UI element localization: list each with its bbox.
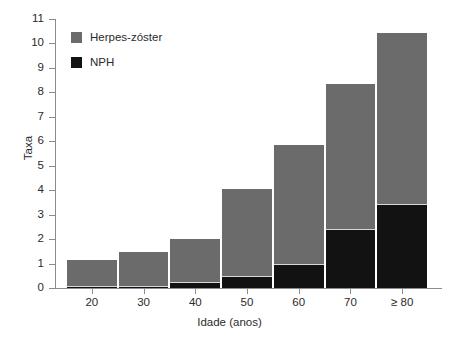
y-tick-mark — [49, 43, 56, 44]
y-tick-label: 8 — [0, 86, 44, 98]
bar-20 — [66, 259, 118, 288]
y-tick-mark — [49, 68, 56, 69]
bar-segment-nph — [170, 282, 220, 288]
y-tick-mark — [49, 19, 56, 20]
x-tick-mark — [92, 288, 93, 294]
y-tick-mark — [49, 166, 56, 167]
y-tick-mark — [49, 264, 56, 265]
x-tick-mark — [247, 288, 248, 294]
legend-label: NPH — [90, 56, 114, 68]
stacked-bar-chart: 01234567891011 203040506070≥ 80 Taxa Ida… — [0, 0, 459, 337]
x-axis-title: Idade (anos) — [0, 316, 459, 328]
legend-label: Herpes-zóster — [90, 31, 162, 43]
x-tick-label: ≥ 80 — [372, 296, 432, 309]
chart-legend: Herpes-zósterNPH — [71, 27, 162, 77]
y-tick-label: 1 — [0, 258, 44, 270]
y-tick-label: 10 — [0, 37, 44, 49]
bar-segment-nph — [326, 229, 376, 288]
y-tick-mark — [49, 117, 56, 118]
x-tick-mark — [350, 288, 351, 294]
bar-segment-nph — [377, 204, 427, 288]
bar-segment-herpes-zoster — [67, 260, 117, 288]
y-tick-mark — [49, 215, 56, 216]
x-tick-mark — [299, 288, 300, 294]
x-tick-mark — [402, 288, 403, 294]
y-tick-label: 2 — [0, 233, 44, 245]
bar-segment-nph — [67, 286, 117, 288]
bar-segment-herpes-zoster — [222, 189, 272, 288]
y-tick-label: 3 — [0, 209, 44, 221]
y-tick-label: 9 — [0, 62, 44, 74]
y-tick-mark — [49, 190, 56, 191]
bar-80 — [376, 32, 428, 288]
y-axis-title: Taxa — [22, 118, 34, 178]
bar-segment-nph — [119, 286, 169, 288]
bar-segment-herpes-zoster — [170, 239, 220, 288]
bar-30 — [118, 251, 170, 288]
bar-70 — [325, 83, 377, 288]
y-tick-mark — [49, 141, 56, 142]
legend-swatch-icon — [71, 57, 82, 68]
y-tick-mark — [49, 288, 56, 289]
y-tick-mark — [49, 239, 56, 240]
bar-50 — [221, 188, 273, 288]
y-tick-label: 4 — [0, 184, 44, 196]
bar-segment-nph — [274, 264, 324, 288]
legend-item-nph: NPH — [71, 52, 162, 72]
y-tick-mark — [49, 92, 56, 93]
x-axis-line — [49, 288, 442, 289]
x-tick-mark — [144, 288, 145, 294]
x-tick-mark — [195, 288, 196, 294]
legend-item-herpes-zoster: Herpes-zóster — [71, 27, 162, 47]
bar-60 — [273, 144, 325, 288]
bar-segment-nph — [222, 276, 272, 288]
y-tick-label: 11 — [0, 13, 44, 25]
bar-40 — [169, 238, 221, 288]
legend-swatch-icon — [71, 32, 82, 43]
bar-segment-herpes-zoster — [119, 252, 169, 288]
y-tick-label: 0 — [0, 282, 44, 294]
